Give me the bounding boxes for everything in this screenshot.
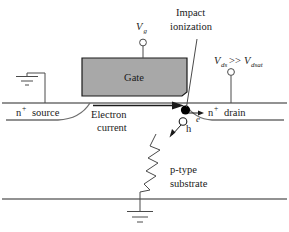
gate-terminal-node[interactable]: [140, 39, 147, 46]
drain-bias-operator: >>: [229, 55, 241, 66]
mosfet-impact-ionization-figure: Gate V g V ds >> V dsat n + source n + d…: [0, 0, 289, 232]
substrate-label-line1: p-type: [170, 164, 197, 175]
electron-current-label-line1: Electron: [91, 109, 127, 120]
drain-terminal-node[interactable]: [228, 69, 235, 76]
hole-carrier-label: h: [186, 123, 192, 134]
source-word-label: source: [32, 107, 60, 118]
impact-ionization-leader-line: [187, 39, 198, 107]
electron-current-label-line2: current: [97, 122, 127, 133]
gate-label: Gate: [124, 72, 144, 83]
electron-carrier-label: e: [196, 114, 200, 124]
source-superscript: +: [22, 104, 26, 113]
impact-ionization-label-line1: Impact: [176, 7, 205, 18]
drain-superscript: +: [214, 104, 218, 113]
drain-bias-v-dsat-subscript: dsat: [251, 61, 264, 69]
gate-voltage-subscript: g: [144, 27, 148, 35]
diagram-canvas: Gate V g V ds >> V dsat n + source n + d…: [0, 0, 289, 232]
drain-word-label: drain: [224, 107, 246, 118]
impact-ionization-electron-dot: [181, 105, 190, 114]
hole-drift-arrow-head: [170, 129, 176, 138]
substrate-label-line2: substrate: [170, 178, 208, 189]
drain-bias-v-ds-subscript: ds: [221, 61, 228, 69]
substrate-resistor-zigzag: [140, 134, 160, 199]
impact-ionization-label-line2: ionization: [170, 21, 213, 32]
